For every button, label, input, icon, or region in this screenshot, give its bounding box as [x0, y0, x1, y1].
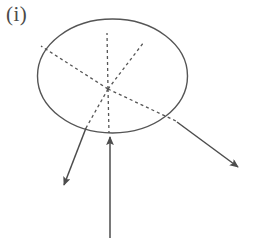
ray-lower-right	[108, 89, 178, 122]
ellipse-outline	[38, 19, 188, 133]
arrow-outgoing-left	[64, 128, 86, 185]
ray-down-vertical	[108, 89, 109, 133]
ray-lower-left	[86, 89, 108, 128]
arrow-outgoing-right	[177, 122, 238, 167]
diagram-canvas	[0, 0, 260, 247]
figure-panel: (i)	[0, 0, 260, 247]
ellipse-group	[38, 19, 188, 133]
arrows-group	[64, 122, 238, 238]
ray-up-vertical	[107, 33, 108, 89]
ray-upper-left	[41, 46, 108, 89]
ray-upper-right	[108, 42, 144, 89]
convergence-point	[107, 88, 110, 91]
